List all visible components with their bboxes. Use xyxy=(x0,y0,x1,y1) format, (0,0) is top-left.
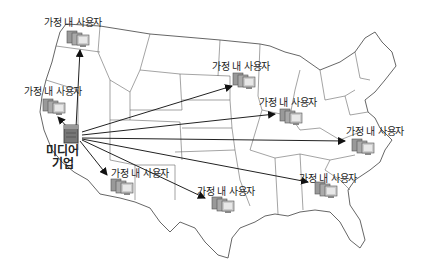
hub-label-line2: 기업 xyxy=(46,158,79,171)
server-icon xyxy=(64,125,78,143)
computers-icon xyxy=(110,177,136,197)
computers-icon xyxy=(232,71,258,91)
computers-icon xyxy=(211,195,237,215)
diagram-root: 미디어 기업 가정 내 사용자가정 내 사용자가정 내 사용자가정 내 사용자가… xyxy=(0,0,443,280)
user-node-label: 가정 내 사용자 xyxy=(24,83,82,98)
hub-label: 미디어 기업 xyxy=(46,145,79,171)
computers-icon xyxy=(351,137,377,157)
computers-icon xyxy=(66,29,92,49)
computers-icon xyxy=(314,180,340,200)
computers-icon xyxy=(42,97,68,117)
computers-icon xyxy=(279,107,305,127)
user-node-label: 가정 내 사용자 xyxy=(44,14,102,29)
user-node-label: 가정 내 사용자 xyxy=(346,123,404,138)
